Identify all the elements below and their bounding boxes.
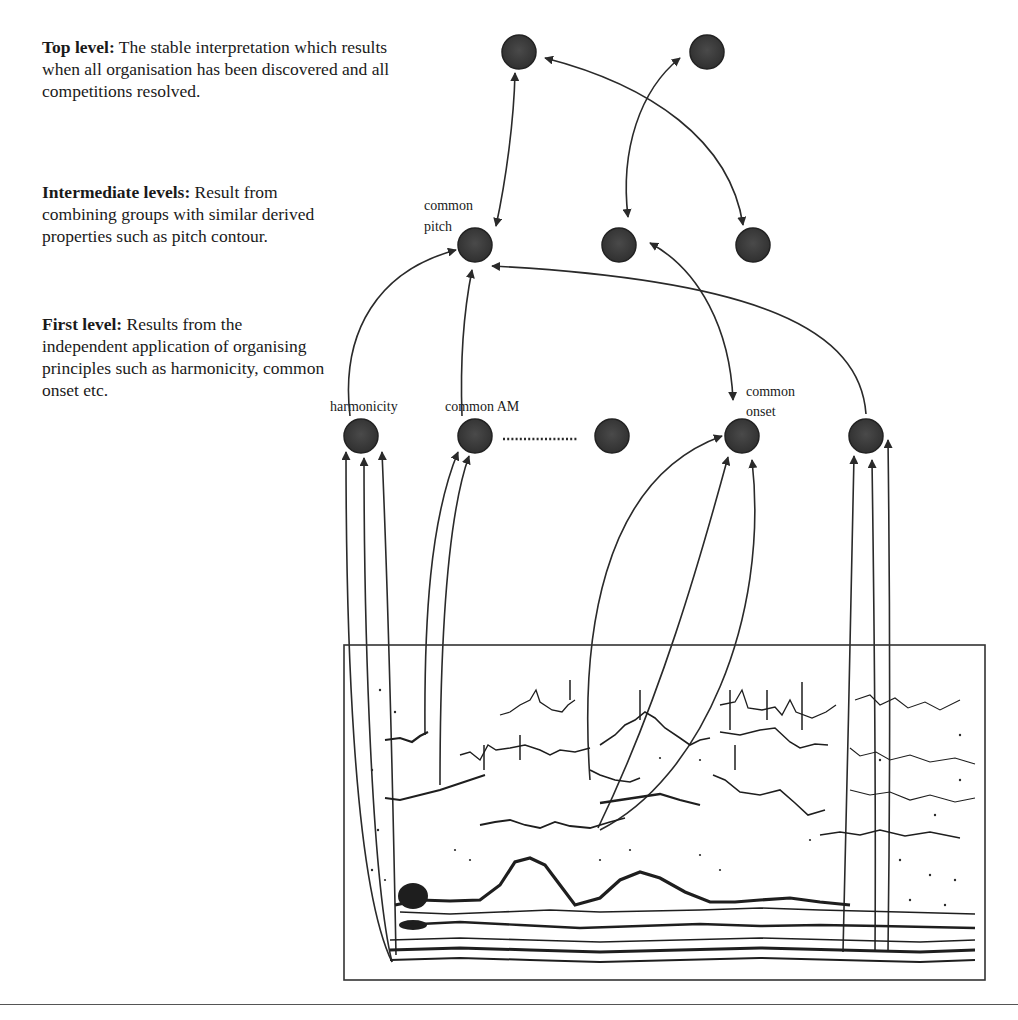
common-am-node [458, 419, 492, 453]
bottom-divider-rule [0, 1004, 1018, 1005]
spectrogram-traces [385, 680, 975, 962]
common-onset-node [725, 419, 759, 453]
first-level-node-5 [849, 419, 883, 453]
top-node-1 [502, 35, 536, 69]
spectrogram-speckles [371, 689, 961, 906]
hierarchy-diagram [0, 0, 1018, 1020]
intermediate-level-nodes [458, 228, 770, 262]
first-level-nodes [344, 419, 883, 453]
top-level-nodes [502, 35, 724, 69]
harmonicity-node [344, 419, 378, 453]
first-level-node-3 [595, 419, 629, 453]
intermediate-node-3 [736, 228, 770, 262]
common-pitch-node [458, 228, 492, 262]
intermediate-node-2 [602, 228, 636, 262]
top-node-2 [690, 35, 724, 69]
